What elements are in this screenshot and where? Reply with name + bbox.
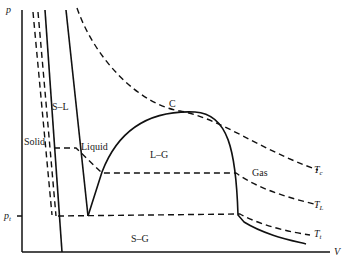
tl-label: TL bbox=[314, 199, 324, 212]
pt-label: pt bbox=[3, 210, 12, 223]
region-gas: Gas bbox=[252, 167, 268, 178]
liquid-boundary-line bbox=[66, 10, 88, 216]
tc-label: Tc bbox=[314, 164, 324, 177]
isotherm-tt bbox=[58, 214, 310, 235]
phase-diagram: p V pt Solid S–L Liquid L–G Gas S–G C Tc… bbox=[0, 0, 343, 261]
y-axis-label: p bbox=[5, 4, 11, 15]
region-liquid: Liquid bbox=[81, 141, 108, 152]
critical-point-label: C bbox=[169, 98, 176, 109]
region-solid: Solid bbox=[24, 136, 45, 147]
isotherm-tc bbox=[77, 8, 318, 170]
region-solid-gas: S–G bbox=[131, 233, 149, 244]
solid-isotherm-1 bbox=[33, 12, 52, 215]
x-axis-label: V bbox=[334, 246, 342, 257]
tt-label: Tt bbox=[314, 228, 323, 241]
region-liquid-gas: L–G bbox=[150, 149, 168, 160]
region-solid-liquid: S–L bbox=[52, 101, 69, 112]
liquid-gas-coexistence-curve bbox=[88, 112, 306, 244]
